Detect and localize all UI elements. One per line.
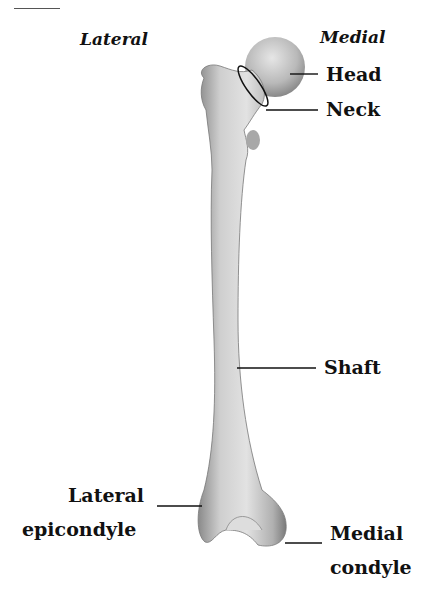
lesser-trochanter-shape: [246, 130, 260, 150]
label-medial-condyle-1: Medial: [330, 522, 403, 544]
label-shaft: Shaft: [324, 356, 381, 378]
label-head: Head: [326, 63, 382, 85]
label-neck: Neck: [326, 98, 380, 120]
label-lateral-epicondyle-2: epicondyle: [22, 518, 136, 540]
label-lateral-epicondyle-1: Lateral: [68, 484, 144, 506]
femur-body-shape: [198, 65, 286, 546]
femur-illustration: [0, 0, 437, 597]
label-medial-condyle-2: condyle: [330, 556, 412, 578]
